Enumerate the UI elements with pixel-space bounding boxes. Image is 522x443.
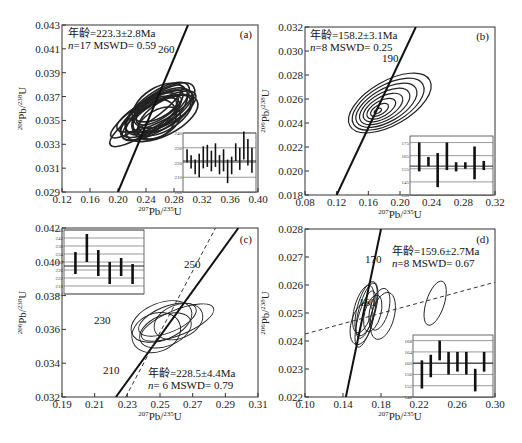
concordia-age-label: 210 [103, 364, 120, 376]
y-tick-label: 0.030 [278, 45, 303, 57]
inset-tick-label: 168 [405, 339, 413, 344]
inset-tick-label: 238 [56, 244, 64, 249]
inset-tick-label: 246 [56, 228, 64, 233]
x-tick-label: 0.25 [150, 398, 170, 410]
panel-c: 0.190.210.230.250.270.290.310.0320.0340.… [16, 222, 268, 422]
inset-tick-label: 148 [405, 395, 413, 400]
inset-age-bar-chart: 214218222226230234238242246 [56, 228, 145, 297]
y-tick-label: 0.026 [278, 279, 303, 291]
y-tick-label: 0.041 [35, 43, 60, 55]
x-tick-label: 0.22 [409, 398, 428, 410]
x-axis-label: 207Pb/235U [138, 410, 182, 422]
x-tick-label: 0.20 [108, 193, 128, 205]
panel-b: 0.080.120.160.200.240.280.320.0180.0200.… [259, 21, 505, 220]
y-tick-label: 0.022 [278, 141, 303, 153]
x-tick-label: 0.28 [454, 196, 474, 208]
stats-annotation: n=8 MSWD= 0.25 [310, 41, 393, 53]
age-annotation: 年龄=159.6±2.7Ma [392, 244, 480, 257]
y-tick-label: 0.018 [278, 189, 303, 201]
inset-tick-label: 156 [405, 372, 413, 377]
x-tick-label: 0.24 [422, 196, 442, 208]
y-tick-label: 0.027 [278, 251, 303, 263]
y-tick-label: 0.024 [278, 117, 303, 129]
inset-tick-label: 152 [405, 384, 413, 389]
discordia-line [305, 282, 495, 334]
age-annotation: 年龄=158.2±3.1Ma [310, 28, 398, 41]
inset-tick-label: 218 [56, 284, 64, 289]
panel-label: (b) [476, 30, 489, 43]
x-tick-label: 0.18 [371, 398, 391, 410]
inset-tick-label: 210 [175, 175, 183, 180]
inset-tick-label: 220 [175, 161, 183, 166]
inset-tick-label: 160 [405, 361, 413, 366]
error-ellipse [339, 61, 441, 145]
y-tick-label: 0.024 [278, 335, 303, 347]
x-tick-label: 0.36 [220, 193, 240, 205]
panel-label: (c) [240, 233, 253, 246]
x-tick-label: 0.16 [80, 193, 100, 205]
inset-tick-label: 145 [402, 180, 410, 185]
concordia-age-label: 230 [94, 314, 111, 326]
error-ellipses [339, 61, 441, 145]
concordia-age-label: 160 [359, 296, 376, 308]
y-tick-label: 0.034 [35, 357, 60, 369]
x-tick-label: 0.27 [183, 398, 203, 410]
y-tick-label: 0.023 [278, 363, 303, 375]
x-tick-label: 0.31 [248, 398, 267, 410]
inset-age-bar-chart: 200210220230240 [175, 131, 257, 195]
y-axis-label: 206Pb/238U [259, 89, 271, 133]
y-tick-label: 0.028 [278, 69, 303, 81]
y-tick-label: 0.033 [35, 138, 60, 150]
error-ellipse [419, 279, 450, 328]
y-tick-label: 0.026 [278, 93, 303, 105]
x-tick-label: 0.32 [192, 193, 211, 205]
inset-tick-label: 165 [402, 154, 410, 159]
inset-tick-label: 214 [56, 292, 64, 297]
x-tick-label: 0.14 [333, 398, 353, 410]
concordia-age-label: 170 [365, 253, 382, 265]
x-tick-label: 0.24 [136, 193, 156, 205]
y-axis-label: 206Pb/238U [16, 87, 28, 131]
inset-tick-label: 175 [402, 141, 410, 146]
inset-tick-label: 164 [405, 350, 413, 355]
y-tick-label: 0.020 [278, 165, 303, 177]
inset-tick-label: 155 [402, 167, 410, 172]
inset-tick-label: 240 [175, 131, 183, 136]
panel-label: (a) [240, 28, 253, 41]
x-axis-label: 207Pb/235U [378, 208, 422, 220]
x-tick-label: 0.12 [327, 196, 346, 208]
y-tick-label: 0.029 [35, 186, 60, 198]
figure-canvas: 0.120.160.200.240.280.320.360.400.0290.0… [0, 0, 522, 443]
y-tick-label: 0.039 [35, 67, 60, 79]
age-annotation: 年龄=228.5±4.4Ma [148, 366, 236, 379]
y-tick-label: 0.028 [278, 223, 303, 235]
inset-tick-label: 230 [56, 260, 64, 265]
x-tick-label: 0.40 [248, 193, 268, 205]
y-tick-label: 0.043 [35, 19, 60, 31]
x-tick-label: 0.23 [118, 398, 138, 410]
x-tick-label: 0.21 [85, 398, 104, 410]
x-tick-label: 0.29 [216, 398, 236, 410]
concordia-age-label: 250 [184, 258, 201, 270]
inset-tick-label: 200 [175, 190, 183, 195]
stats-annotation: n= 6 MSWD= 0.79 [148, 379, 234, 391]
x-tick-label: 0.32 [485, 196, 504, 208]
y-tick-label: 0.032 [35, 391, 60, 403]
inset-age-bar-chart: 135145155165175 [402, 136, 494, 198]
y-axis-label: 206Pb/238U [259, 291, 271, 335]
x-axis-label: 207Pb/235U [378, 410, 422, 422]
x-tick-label: 0.26 [447, 398, 467, 410]
y-tick-label: 0.025 [278, 307, 303, 319]
y-tick-label: 0.037 [35, 91, 60, 103]
stats-annotation: n=8 MSWD= 0.67 [392, 257, 475, 269]
y-tick-label: 0.032 [278, 21, 303, 33]
x-tick-label: 0.30 [485, 398, 505, 410]
inset-tick-label: 226 [56, 268, 64, 273]
x-tick-label: 0.16 [359, 196, 379, 208]
inset-tick-label: 222 [56, 276, 64, 281]
inset-tick-label: 230 [175, 146, 183, 151]
error-ellipse [125, 292, 198, 350]
y-tick-label: 0.036 [35, 323, 60, 335]
inset-tick-label: 234 [56, 252, 64, 257]
age-annotation: 年龄=223.3±2.8Ma [68, 26, 156, 39]
